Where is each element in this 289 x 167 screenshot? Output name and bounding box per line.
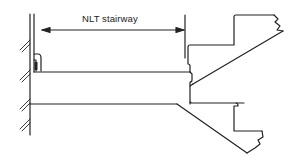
dimension-label: NLT stairway <box>82 13 138 24</box>
stair-section-diagram: NLT stairway <box>0 0 289 167</box>
handrail <box>34 54 41 71</box>
upper-flight <box>188 15 283 86</box>
wall <box>30 14 34 135</box>
stair-drawing <box>0 0 289 167</box>
landing <box>30 72 190 104</box>
lower-flight <box>177 86 263 153</box>
wall-hatch <box>20 40 30 131</box>
